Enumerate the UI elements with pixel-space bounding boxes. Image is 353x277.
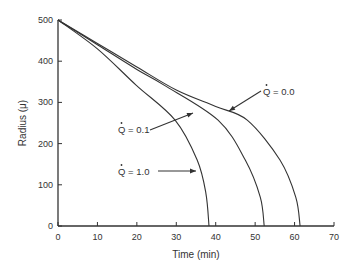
dot-accent-icon — [121, 122, 123, 124]
y-tick-label: 300 — [38, 97, 53, 107]
annotation-label: Q = 0.0 — [263, 86, 294, 97]
annotation-q-0: Q = 1.0 — [118, 164, 196, 177]
x-tick-label: 0 — [55, 232, 60, 242]
y-tick-label: 500 — [38, 15, 53, 25]
y-tick-label: 0 — [48, 221, 53, 231]
chart: 0102030405060700100200300400500 Q = 1.0Q… — [0, 0, 353, 277]
dot-accent-icon — [121, 164, 123, 166]
x-tick-label: 40 — [211, 232, 221, 242]
annotation-label: Q = 0.1 — [118, 124, 149, 135]
annotation-q-1: Q = 0.1 — [118, 113, 193, 135]
y-axis-label: Radius (μ) — [17, 100, 28, 146]
x-tick-label: 70 — [329, 232, 339, 242]
y-tick-label: 100 — [38, 180, 53, 190]
x-tick-label: 50 — [250, 232, 260, 242]
arrowhead-icon — [229, 106, 235, 111]
annotation-q-2: Q = 0.0 — [229, 84, 294, 111]
x-tick-label: 20 — [132, 232, 142, 242]
x-axis-label: Time (min) — [172, 249, 219, 260]
series-line-q-0 — [58, 20, 209, 226]
arrowhead-icon — [190, 169, 196, 174]
y-tick-label: 400 — [38, 56, 53, 66]
x-tick-label: 60 — [290, 232, 300, 242]
arrowhead-icon — [187, 113, 193, 117]
series-line-q-2 — [58, 20, 300, 226]
x-tick-label: 30 — [171, 232, 181, 242]
annotation-label: Q = 1.0 — [118, 166, 149, 177]
x-tick-label: 10 — [92, 232, 102, 242]
y-tick-label: 200 — [38, 139, 53, 149]
series-line-q-1 — [58, 20, 264, 226]
dot-accent-icon — [266, 84, 268, 86]
